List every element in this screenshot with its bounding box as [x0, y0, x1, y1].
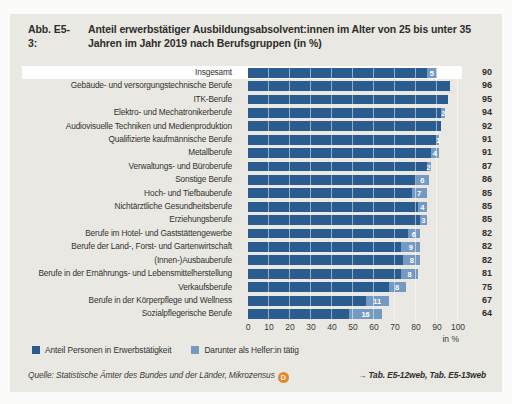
- chart-row: Verwaltungs- und Büroberufe287: [18, 160, 496, 173]
- legend-label-employed: Anteil Personen in Erwerbstätigkeit: [45, 345, 171, 355]
- bar-employed: 4: [248, 202, 427, 212]
- figure-number: Abb. E5-3:: [28, 22, 78, 50]
- category-label: Qualifizierte kaufmännische Berufe: [18, 133, 232, 146]
- helper-value-label: 6: [412, 229, 416, 238]
- category-label: Verkaufsberufe: [18, 281, 232, 294]
- bar-employed: 8: [248, 269, 418, 279]
- bar-employed: [248, 121, 441, 131]
- category-label: Berufe im Hotel- und Gaststättengewerbe: [18, 227, 232, 240]
- bar-track: 8: [248, 254, 458, 267]
- total-value-label: 82: [464, 254, 492, 267]
- bar-employed: 7: [248, 188, 427, 198]
- bar-track: 7: [248, 187, 458, 200]
- helper-value-label: 5: [430, 68, 434, 77]
- legend-label-helper: Darunter als Helfer:in tätig: [204, 345, 299, 355]
- axis-tick: 100: [451, 322, 465, 332]
- figure-footer: Quelle: Statistische Ämter des Bundes un…: [28, 370, 486, 383]
- bar-track: [248, 93, 458, 106]
- chart-row: Gebäude- und versorgungstechnische Beruf…: [18, 79, 496, 92]
- bar-track: 2: [248, 106, 458, 119]
- axis-tick: 70: [390, 322, 399, 332]
- bar-helper-segment: 7: [412, 188, 427, 198]
- category-label: Nichtärztliche Gesundheitsberufe: [18, 200, 232, 213]
- table-links[interactable]: → Tab. E5-12web, Tab. E5-13web: [358, 370, 486, 380]
- bar-helper-segment: 3: [420, 215, 426, 225]
- chart-row: Insgesamt590: [18, 66, 496, 79]
- bar-helper-segment: 1: [437, 135, 439, 145]
- bar-helper-segment: 8: [401, 269, 418, 279]
- bar-helper-segment: 16: [349, 309, 383, 319]
- helper-value-label: 3: [421, 216, 425, 225]
- total-value-label: 82: [464, 240, 492, 253]
- source-note: Quelle: Statistische Ämter des Bundes un…: [28, 370, 289, 383]
- total-value-label: 81: [464, 267, 492, 280]
- helper-value-label: 8: [395, 283, 399, 292]
- category-label: Berufe in der Ernährungs- und Lebensmitt…: [18, 267, 232, 280]
- bar-track: 6: [248, 227, 458, 240]
- bar-track: 8: [248, 281, 458, 294]
- bar-employed: 3: [248, 215, 427, 225]
- helper-value-label: 7: [417, 189, 421, 198]
- bar-helper-segment: 2: [427, 162, 431, 172]
- bar-helper-segment: 6: [416, 175, 429, 185]
- bar-employed: 6: [248, 175, 429, 185]
- bar-helper-segment: 9: [401, 242, 420, 252]
- total-value-label: 91: [464, 133, 492, 146]
- total-value-label: 67: [464, 294, 492, 307]
- total-value-label: 87: [464, 160, 492, 173]
- total-value-label: 91: [464, 146, 492, 159]
- helper-value-label: 6: [420, 175, 424, 184]
- bar-helper-segment: 11: [366, 296, 389, 306]
- axis-tick: 40: [327, 322, 336, 332]
- chart-row: Berufe in der Körperpflege und Wellness1…: [18, 294, 496, 307]
- bar-track: 5: [248, 66, 458, 79]
- category-label: ITK-Berufe: [18, 93, 232, 106]
- bar-employed: 6: [248, 229, 420, 239]
- bar-employed: 1: [248, 135, 439, 145]
- chart-row: Berufe der Land-, Forst- und Gartenwirts…: [18, 240, 496, 253]
- bar-helper-segment: 4: [431, 148, 439, 158]
- bar-helper-segment: 2: [441, 108, 445, 118]
- bar-helper-segment: 5: [427, 68, 438, 78]
- total-value-label: 94: [464, 106, 492, 119]
- total-value-label: 85: [464, 187, 492, 200]
- axis-tick: 90: [432, 322, 441, 332]
- legend-item-employed: Anteil Personen in Erwerbstätigkeit: [32, 345, 171, 355]
- category-label: Sozialpflegerische Berufe: [18, 307, 232, 320]
- bar-employed: [248, 81, 450, 91]
- chart-row: Elektro- und Mechatronikerberufe294: [18, 106, 496, 119]
- category-label: Berufe der Land-, Forst- und Gartenwirts…: [18, 240, 232, 253]
- total-value-label: 86: [464, 173, 492, 186]
- bar-employed: [248, 95, 448, 105]
- helper-value-label: 1: [436, 135, 440, 144]
- total-value-label: 82: [464, 227, 492, 240]
- bar-track: 6: [248, 173, 458, 186]
- category-label: Sonstige Berufe: [18, 173, 232, 186]
- chart-row: (Innen-)Ausbauberufe882: [18, 254, 496, 267]
- helper-value-label: 9: [409, 242, 413, 251]
- bar-track: 4: [248, 146, 458, 159]
- category-label: Insgesamt: [18, 66, 232, 79]
- chart: Insgesamt590Gebäude- und versorgungstech…: [18, 66, 496, 321]
- bar-employed: 11: [248, 296, 389, 306]
- category-label: Gebäude- und versorgungstechnische Beruf…: [18, 79, 232, 92]
- figure-panel: Abb. E5-3: Anteil erwerbstätiger Ausbild…: [10, 14, 502, 392]
- bar-track: [248, 120, 458, 133]
- helper-value-label: 8: [410, 256, 414, 265]
- bar-track: 2: [248, 160, 458, 173]
- source-text: Quelle: Statistische Ämter des Bundes un…: [28, 370, 275, 380]
- axis-tick: 30: [306, 322, 315, 332]
- axis-tick: 20: [285, 322, 294, 332]
- total-value-label: 64: [464, 307, 492, 320]
- bar-employed: 2: [248, 108, 445, 118]
- data-link-icon[interactable]: D: [278, 372, 289, 383]
- bar-employed: 8: [248, 282, 406, 292]
- total-value-label: 90: [464, 66, 492, 79]
- legend: Anteil Personen in Erwerbstätigkeit Daru…: [32, 345, 299, 355]
- category-label: Elektro- und Mechatronikerberufe: [18, 106, 232, 119]
- bar-employed: 4: [248, 148, 439, 158]
- axis-tick: 60: [369, 322, 378, 332]
- chart-row: Hoch- und Tiefbauberufe785: [18, 187, 496, 200]
- helper-value-label: 4: [420, 202, 424, 211]
- axis-tick: 0: [246, 322, 251, 332]
